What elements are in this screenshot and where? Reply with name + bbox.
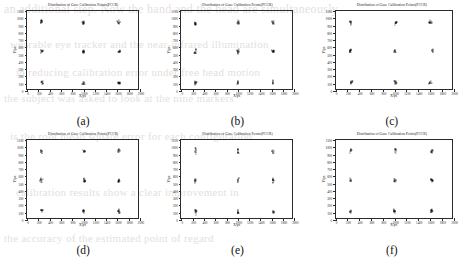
x-axis-tick: 2000 <box>294 89 295 92</box>
y-axis-tick: 800 <box>179 33 182 34</box>
y-axis-tick-label: 800 <box>19 32 24 36</box>
scatter-point <box>42 83 43 84</box>
x-axis-tick: 600 <box>371 89 372 92</box>
y-axis-tick: 1000 <box>25 18 28 19</box>
y-axis-tick-label: 800 <box>19 161 24 165</box>
x-axis-tick: 2000 <box>140 218 141 221</box>
y-axis-tick: 200 <box>25 205 28 206</box>
y-axis-tick: 800 <box>333 33 336 34</box>
y-axis-tick-label: 900 <box>173 25 178 29</box>
scatter-point <box>42 179 43 180</box>
y-axis-tick-label: 200 <box>173 75 178 79</box>
x-axis-tick: 2000 <box>294 218 295 221</box>
x-axis-tick: 800 <box>227 218 228 221</box>
y-axis-label: Y/px <box>321 176 325 183</box>
y-axis-tick-label: 100 <box>19 83 24 87</box>
panel-caption-letter: (d) <box>6 244 160 256</box>
scatter-point <box>395 212 396 213</box>
y-axis-tick: 300 <box>179 69 182 70</box>
y-axis-tick-label: 500 <box>173 54 178 58</box>
y-axis-tick: 100 <box>179 84 182 85</box>
x-axis-tick: 800 <box>72 218 73 221</box>
y-axis-tick: 300 <box>25 198 28 199</box>
y-axis-tick-label: 700 <box>19 168 24 172</box>
x-axis-tick: 2000 <box>454 89 455 92</box>
y-axis-tick-label: 200 <box>19 204 24 208</box>
y-axis-tick-label: 600 <box>173 175 178 179</box>
y-axis-tick: 500 <box>25 184 28 185</box>
y-axis-tick-label: 500 <box>19 54 24 58</box>
x-axis-tick: 200 <box>38 218 39 221</box>
y-axis-label: Y/px <box>13 176 17 183</box>
scatter-point <box>431 22 432 23</box>
x-axis-tick: 400 <box>50 89 51 92</box>
x-axis-tick: 800 <box>383 218 384 221</box>
y-axis-tick: 1100 <box>333 140 336 141</box>
y-axis-tick-label: 1000 <box>326 17 333 21</box>
x-axis-tick: 400 <box>50 218 51 221</box>
y-axis-tick: 400 <box>179 62 182 63</box>
scatter-point <box>195 153 196 154</box>
x-axis-tick: 400 <box>359 89 360 92</box>
y-axis-tick-label: 300 <box>19 197 24 201</box>
x-axis-tick: 1200 <box>249 89 250 92</box>
scatter-point <box>238 182 239 183</box>
y-axis-tick: 1100 <box>179 11 182 12</box>
plot-panel-d: Distribution of Gaze Calibration Points(… <box>0 129 154 258</box>
y-axis-tick-label: 0 <box>331 219 333 223</box>
x-axis-tick: 1000 <box>395 218 396 221</box>
y-axis-tick: 600 <box>333 176 336 177</box>
scatter-point <box>195 52 196 53</box>
y-axis-tick-label: 400 <box>19 190 24 194</box>
x-axis-tick: 1200 <box>95 89 96 92</box>
y-axis-tick: 200 <box>179 205 182 206</box>
x-axis-tick: 0 <box>181 89 182 92</box>
y-axis-tick-label: 700 <box>173 168 178 172</box>
y-axis-tick-label: 900 <box>19 154 24 158</box>
x-axis-tick: 400 <box>204 89 205 92</box>
y-axis-tick: 900 <box>179 26 182 27</box>
y-axis-tick-label: 1100 <box>326 139 332 143</box>
y-axis-tick-label: 600 <box>19 175 24 179</box>
y-axis-tick: 100 <box>333 84 336 85</box>
y-axis-tick-label: 800 <box>173 32 178 36</box>
scatter-point <box>83 23 84 24</box>
y-axis-tick-label: 900 <box>327 25 332 29</box>
scatter-point <box>237 53 238 54</box>
x-axis-tick-label: 2000 <box>292 221 298 225</box>
scatter-point <box>273 180 274 181</box>
scatter-point <box>431 82 432 83</box>
scatter-point <box>238 212 239 213</box>
scatter-point <box>272 83 273 84</box>
y-axis-tick-label: 1000 <box>171 146 178 150</box>
scatter-point <box>119 52 120 53</box>
scatter-point <box>195 182 196 183</box>
y-axis-tick-label: 1100 <box>17 139 23 143</box>
plot-title: Distribution of Gaze Calibration Points(… <box>315 132 463 136</box>
y-axis-tick: 1100 <box>25 140 28 141</box>
y-axis-tick: 800 <box>25 162 28 163</box>
y-axis-tick-label: 500 <box>327 54 332 58</box>
y-axis-tick: 700 <box>179 40 182 41</box>
y-axis-tick-label: 800 <box>327 32 332 36</box>
y-axis-label: Y/px <box>321 47 325 54</box>
y-axis-tick: 600 <box>179 47 182 48</box>
y-axis-tick-label: 1100 <box>326 10 332 14</box>
y-axis-tick: 100 <box>25 84 28 85</box>
x-axis-tick: 200 <box>193 89 194 92</box>
x-axis-tick: 0 <box>27 89 28 92</box>
y-axis-tick: 600 <box>25 47 28 48</box>
y-axis-tick-label: 200 <box>327 75 332 79</box>
panel-caption-letter: (a) <box>6 115 160 127</box>
scatter-point <box>274 212 275 213</box>
x-axis-tick: 1400 <box>418 218 419 221</box>
y-axis-tick-label: 600 <box>327 175 332 179</box>
scatter-point <box>351 83 352 84</box>
x-axis-tick: 800 <box>383 89 384 92</box>
x-axis-label: X/px <box>181 223 292 227</box>
x-axis-tick: 200 <box>347 218 348 221</box>
scatter-point <box>41 181 42 182</box>
scatter-point <box>239 20 240 21</box>
plot-title: Distribution of Gaze Calibration Points(… <box>6 132 160 136</box>
x-axis-tick: 600 <box>371 218 372 221</box>
